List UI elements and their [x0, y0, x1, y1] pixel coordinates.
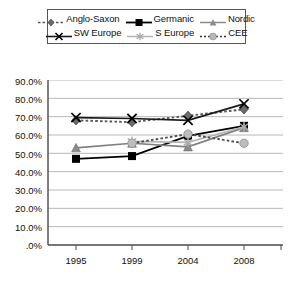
- x-axis-label: 1999: [112, 256, 152, 266]
- series-anglo-saxon: [72, 105, 248, 127]
- circle-marker-icon: [128, 139, 136, 147]
- legend-row: SW Europe S Europe: [51, 26, 242, 40]
- legend-label: S Europe: [155, 28, 194, 38]
- axis-lines: [48, 80, 283, 250]
- circle-marker-icon: [200, 28, 226, 39]
- legend-item-cee[interactable]: CEE: [200, 28, 247, 39]
- legend-label: CEE: [228, 28, 247, 38]
- y-axis-label: 60.0%: [0, 131, 42, 140]
- y-axis-label: 40.0%: [0, 168, 42, 177]
- circle-marker-icon: [184, 130, 192, 138]
- x-axis-label: 2008: [224, 256, 264, 266]
- cross-marker-icon: [46, 28, 72, 39]
- y-axis-label: 70.0%: [0, 113, 42, 122]
- x-axis-label: 2004: [168, 256, 208, 266]
- legend-row: Anglo-Saxon Germanic N: [51, 12, 242, 26]
- legend-item-s-europe[interactable]: S Europe: [127, 28, 194, 39]
- plot-area: [47, 80, 283, 245]
- legend-item-nordic[interactable]: Nordic: [200, 14, 255, 25]
- y-axis-label: 20.0%: [0, 204, 42, 213]
- circle-marker-icon: [240, 139, 248, 147]
- diamond-marker-icon: [38, 14, 64, 25]
- legend-item-anglo-saxon[interactable]: Anglo-Saxon: [38, 14, 119, 25]
- legend-label: Anglo-Saxon: [66, 14, 119, 24]
- x-axis-label: 1995: [56, 256, 96, 266]
- y-axis-label: 80.0%: [0, 95, 42, 104]
- square-marker-icon: [128, 152, 136, 160]
- square-marker-icon: [72, 155, 80, 163]
- chart-container: Anglo-Saxon Germanic N: [0, 0, 291, 283]
- legend-label: Nordic: [228, 14, 255, 24]
- y-axis-label: .0%: [0, 241, 42, 250]
- y-axis-label: 90.0%: [0, 77, 42, 86]
- legend-item-sw-europe[interactable]: SW Europe: [46, 28, 122, 39]
- legend-label: SW Europe: [74, 28, 122, 38]
- star-marker-icon: [127, 28, 153, 39]
- y-axis-label: 50.0%: [0, 150, 42, 159]
- legend-item-germanic[interactable]: Germanic: [126, 14, 194, 25]
- legend-label: Germanic: [154, 14, 194, 24]
- series-sw-europe: [71, 99, 248, 125]
- series-nordic: [72, 123, 249, 152]
- y-axis-label: 30.0%: [0, 186, 42, 195]
- gridlines: [48, 80, 283, 227]
- chart-legend: Anglo-Saxon Germanic N: [47, 9, 246, 44]
- plot-svg: [47, 80, 283, 252]
- triangle-marker-icon: [200, 14, 226, 25]
- square-marker-icon: [126, 14, 152, 25]
- y-axis-label: 10.0%: [0, 223, 42, 232]
